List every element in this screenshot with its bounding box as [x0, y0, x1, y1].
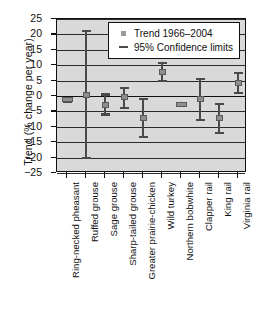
x-tick-mark [104, 172, 105, 178]
confidence-lower-cap [139, 136, 148, 138]
trend-marker [62, 97, 73, 102]
x-tick-mark [180, 172, 181, 178]
trend-marker [140, 115, 147, 121]
x-tick-mark [123, 172, 124, 178]
x-category-label: Virginia rail [241, 182, 252, 312]
confidence-lower-cap [120, 107, 129, 109]
x-category-label: Northern bobwhite [184, 182, 195, 312]
x-category-label: Ring-necked pheasant [70, 182, 81, 312]
x-category-label: Greater prairie-chicken [146, 182, 157, 312]
data-point-group [105, 19, 106, 171]
confidence-lower-cap [215, 132, 224, 134]
x-tick-mark [161, 172, 162, 178]
square-marker-icon [114, 31, 132, 36]
y-tick-label: −20 [2, 152, 42, 162]
legend-entry-trend: Trend 1966–2004 [114, 26, 233, 40]
y-tick-label: 20 [2, 28, 42, 38]
y-tick-mark [51, 172, 56, 173]
x-category-label: Clapper rail [203, 182, 214, 312]
trend-marker [216, 115, 223, 121]
x-tick-mark [85, 172, 86, 178]
confidence-lower-cap [158, 80, 167, 82]
trend-marker [197, 96, 204, 102]
trend-marker [121, 94, 128, 100]
confidence-lower-cap [101, 113, 110, 115]
trend-marker [159, 69, 166, 75]
y-tick-label: −5 [2, 105, 42, 115]
confidence-lower-cap [82, 157, 91, 159]
dash-marker-icon [114, 46, 132, 48]
confidence-lower-cap [196, 119, 205, 121]
confidence-upper-cap [101, 93, 110, 95]
confidence-upper-cap [139, 98, 148, 100]
x-tick-mark [237, 172, 238, 178]
chart-legend: Trend 1966–2004 95% Confidence limits [108, 22, 240, 59]
x-category-label: King rail [222, 182, 233, 312]
x-category-label: Ruffed grouse [89, 182, 100, 312]
y-tick-label: 0 [2, 90, 42, 100]
y-tick-label: −10 [2, 121, 42, 131]
x-category-label: Wild turkey [165, 182, 176, 312]
y-tick-label: −15 [2, 136, 42, 146]
confidence-upper-cap [215, 103, 224, 105]
x-category-label: Sage grouse [108, 182, 119, 312]
x-tick-mark [199, 172, 200, 178]
confidence-lower-cap [234, 92, 243, 94]
x-tick-mark [66, 172, 67, 178]
legend-label-trend: Trend 1966–2004 [132, 28, 213, 39]
x-tick-mark [142, 172, 143, 178]
x-category-label: Sharp-tailed grouse [127, 182, 138, 312]
y-tick-label: 10 [2, 59, 42, 69]
trend-marker [176, 102, 187, 107]
trend-marker [83, 92, 90, 98]
data-point-group [86, 19, 87, 171]
y-tick-label: 25 [2, 13, 42, 23]
y-tick-label: 5 [2, 75, 42, 85]
trend-marker [102, 102, 109, 108]
x-tick-mark [218, 172, 219, 178]
bird-population-trend-chart: Trend (% change per year) 2520151050−5−1… [0, 0, 257, 314]
y-tick-label: −25 [2, 167, 42, 177]
confidence-upper-cap [158, 62, 167, 64]
confidence-upper-cap [120, 87, 129, 89]
confidence-upper-cap [196, 78, 205, 80]
legend-label-confidence: 95% Confidence limits [132, 42, 233, 53]
confidence-upper-cap [234, 72, 243, 74]
confidence-upper-cap [82, 30, 91, 32]
trend-marker [235, 80, 242, 86]
legend-entry-confidence: 95% Confidence limits [114, 40, 233, 54]
y-tick-label: 15 [2, 44, 42, 54]
data-point-group [67, 19, 68, 171]
